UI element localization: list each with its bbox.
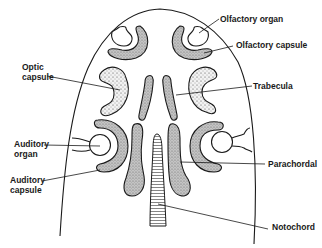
label-auditory-capsule-1: Auditory xyxy=(10,175,45,185)
parachordal-right xyxy=(168,124,190,196)
optic-capsule-left xyxy=(100,67,129,115)
label-olfactory-organ: Olfactory organ xyxy=(220,14,283,24)
leader-olfactory-organ xyxy=(199,19,219,33)
label-trabecula: Trabecula xyxy=(253,81,293,91)
label-auditory-organ-1: Auditory xyxy=(14,139,49,149)
label-optic-capsule-1: Optic xyxy=(22,62,44,72)
label-parachordal: Parachordal xyxy=(268,159,317,169)
chondrocranium-diagram: Olfactory organ Olfactory capsule Optic … xyxy=(0,0,322,248)
leader-auditory-capsule xyxy=(42,170,100,181)
leader-notochord xyxy=(158,204,268,229)
trabecula-right xyxy=(163,75,177,120)
label-notochord: Notochord xyxy=(272,222,315,232)
notochord xyxy=(150,134,166,226)
leader-trabecula xyxy=(176,86,252,95)
auditory-organ-right xyxy=(212,132,233,153)
auditory-organ-left xyxy=(90,135,111,156)
parachordal-left xyxy=(124,124,144,196)
leader-parachordal xyxy=(180,162,265,164)
label-optic-capsule-2: capsule xyxy=(22,72,54,82)
auditory-organ-left-stalk xyxy=(72,138,90,152)
olfactory-organ-right xyxy=(188,27,208,47)
trabecula-left xyxy=(139,75,153,120)
label-auditory-capsule-2: capsule xyxy=(10,185,42,195)
label-auditory-organ-2: organ xyxy=(14,149,38,159)
label-olfactory-capsule: Olfactory capsule xyxy=(236,40,308,50)
auditory-organ-right-stalk xyxy=(232,128,252,152)
